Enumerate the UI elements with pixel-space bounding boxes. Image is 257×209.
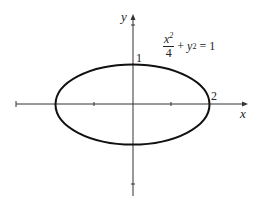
x-axis-label: x (240, 107, 246, 120)
numerator-exponent: 2 (169, 31, 173, 40)
y-exponent: 2 (192, 42, 196, 51)
ellipse-diagram (0, 0, 257, 209)
denominator: 4 (166, 47, 172, 60)
y-axis-arrow-icon (131, 14, 136, 20)
ellipse-equation: x2 4 + y2 = 1 (163, 32, 215, 60)
y-axis-label: y (121, 10, 127, 23)
semi-major-label: 2 (211, 90, 217, 102)
semi-minor-label: 1 (136, 52, 142, 64)
equation-fraction: x2 4 (163, 32, 174, 60)
plus-sign: + (177, 39, 184, 54)
equals-one: = 1 (199, 39, 215, 54)
